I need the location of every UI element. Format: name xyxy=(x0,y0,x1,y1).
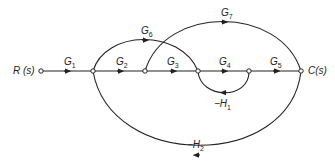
gain-label-h1: −H1 xyxy=(214,99,231,111)
gain-label-g7: G7 xyxy=(221,8,233,20)
output-label: C(s) xyxy=(308,66,327,76)
signal-flow-graph: R (s) C(s) G1 G2 G3 G4 G5 G6 G7 −H1 −H2 xyxy=(0,0,335,163)
node-output xyxy=(299,69,303,73)
node-input xyxy=(39,69,43,73)
branch-h2 xyxy=(93,71,301,145)
gain-label-g5: G5 xyxy=(270,57,282,69)
gain-label-g1: G1 xyxy=(64,57,76,69)
branch-h1 xyxy=(198,71,249,93)
gain-label-g6: G6 xyxy=(141,26,153,38)
node-3 xyxy=(196,69,200,73)
gain-label-g3: G3 xyxy=(167,57,179,69)
gain-label-h2: −H2 xyxy=(187,140,204,152)
node-2 xyxy=(143,69,147,73)
gain-label-g4: G4 xyxy=(219,57,231,69)
branch-g6 xyxy=(93,39,198,71)
node-1 xyxy=(91,69,95,73)
input-label: R (s) xyxy=(13,66,35,76)
node-4 xyxy=(247,69,251,73)
gain-label-g2: G2 xyxy=(116,57,128,69)
graph-edges xyxy=(0,0,335,163)
